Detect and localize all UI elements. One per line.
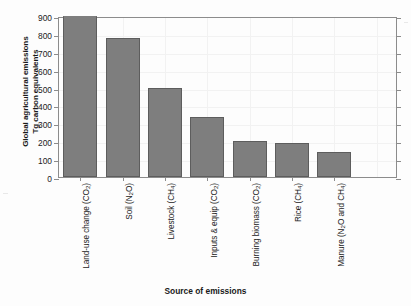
x-tick-mark xyxy=(250,177,251,181)
y-tick-mark xyxy=(54,36,59,37)
y-tick-mark-right xyxy=(396,161,401,162)
y-gridline xyxy=(59,36,396,37)
bar xyxy=(233,141,267,177)
y-tick-label: 200 xyxy=(38,138,52,148)
y-tick-mark xyxy=(54,125,59,126)
y-tick-mark xyxy=(54,107,59,108)
y-tick-mark-right xyxy=(396,36,401,37)
x-tick-mark xyxy=(80,177,81,181)
x-tick-label: Burning biomass (CO2) xyxy=(252,183,261,266)
y-axis-title-line1: Global agricultural emissions xyxy=(21,36,30,146)
y-tick-mark xyxy=(54,179,59,180)
y-tick-label: 600 xyxy=(38,67,52,77)
bar xyxy=(63,16,97,177)
y-tick-mark-right xyxy=(396,125,401,126)
y-tick-mark-right xyxy=(396,143,401,144)
x-tick-mark xyxy=(165,177,166,181)
y-tick-mark-right xyxy=(396,107,401,108)
y-tick-mark xyxy=(54,72,59,73)
bar xyxy=(275,143,309,177)
x-tick-label: Land-use change (CO2) xyxy=(82,183,91,269)
x-tick-mark xyxy=(292,177,293,181)
y-tick-mark xyxy=(54,18,59,19)
y-tick-mark-right xyxy=(396,179,401,180)
y-tick-label: 0 xyxy=(47,174,52,184)
y-tick-label: 100 xyxy=(38,156,52,166)
x-tick-label: Livestock (CH4) xyxy=(167,183,176,239)
y-tick-mark xyxy=(54,161,59,162)
plot-inner: 0100200300400500600700800900 xyxy=(59,18,396,177)
x-axis-title: Source of emissions xyxy=(0,286,411,296)
y-tick-label: 400 xyxy=(38,102,52,112)
bar xyxy=(317,152,351,177)
y-tick-mark xyxy=(54,54,59,55)
y-tick-mark-right xyxy=(396,72,401,73)
y-tick-label: 700 xyxy=(38,49,52,59)
x-tick-mark xyxy=(334,177,335,181)
y-tick-label: 500 xyxy=(38,85,52,95)
x-tick-label: Soil (N2O) xyxy=(125,183,134,220)
x-tick-label: Inputs & equip (CO2) xyxy=(210,183,219,258)
bar xyxy=(148,88,182,177)
x-tick-label: Rice (CH4) xyxy=(294,183,303,222)
y-tick-mark xyxy=(54,90,59,91)
y-tick-label: 900 xyxy=(38,13,52,23)
x-tick-label: Manure (N2O and CH4) xyxy=(337,183,346,267)
chart-figure: Global agricultural emissions Tg carbon … xyxy=(0,0,411,306)
x-tick-mark xyxy=(207,177,208,181)
y-tick-label: 800 xyxy=(38,31,52,41)
bar xyxy=(106,38,140,177)
bar xyxy=(190,117,224,177)
y-tick-mark-right xyxy=(396,18,401,19)
y-tick-mark-right xyxy=(396,54,401,55)
page-artifact xyxy=(3,193,8,194)
y-tick-mark xyxy=(54,143,59,144)
y-tick-label: 300 xyxy=(38,120,52,130)
x-gridline xyxy=(377,18,378,177)
x-tick-mark xyxy=(123,177,124,181)
plot-area: 0100200300400500600700800900 xyxy=(58,17,397,178)
y-tick-mark-right xyxy=(396,90,401,91)
page-artifact xyxy=(404,22,408,23)
